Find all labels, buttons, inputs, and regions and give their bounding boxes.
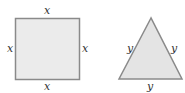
triangle-left-label: y	[126, 42, 134, 55]
geometry-figure: x x x x y y y	[0, 0, 185, 93]
square-shape	[16, 19, 80, 80]
triangle-right-label: y	[170, 42, 178, 55]
triangle-bottom-label: y	[146, 80, 154, 93]
square-left-label: x	[7, 42, 14, 55]
square-bottom-label: x	[44, 80, 51, 93]
square-top-label: x	[44, 4, 51, 17]
square-right-label: x	[82, 42, 89, 55]
